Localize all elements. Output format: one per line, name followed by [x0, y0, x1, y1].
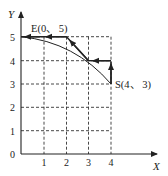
y-axis-label: Y	[8, 8, 16, 20]
y-tick-3: 3	[10, 79, 15, 90]
x-tick-4: 4	[109, 157, 114, 168]
x-axis-label: X	[152, 160, 161, 172]
y-tick-2: 2	[10, 102, 15, 113]
start-point-label: S(4、 3)	[115, 79, 151, 91]
y-tick-5: 5	[10, 32, 15, 43]
grid	[21, 37, 111, 154]
end-point-label: E(0、 5)	[31, 23, 68, 35]
x-tick-1: 1	[42, 157, 47, 168]
x-tick-3: 3	[86, 157, 91, 168]
x-tick-2: 2	[64, 157, 69, 168]
path-segment-diagonal-arrow	[70, 41, 89, 61]
y-tick-4: 4	[10, 56, 15, 67]
path-diagram: Y X 0 1 2 3 4 5 1 2 3 4 E(0、 5) S(4、 3)	[0, 0, 168, 176]
y-tick-1: 1	[10, 126, 15, 137]
origin-label: 0	[10, 149, 15, 160]
